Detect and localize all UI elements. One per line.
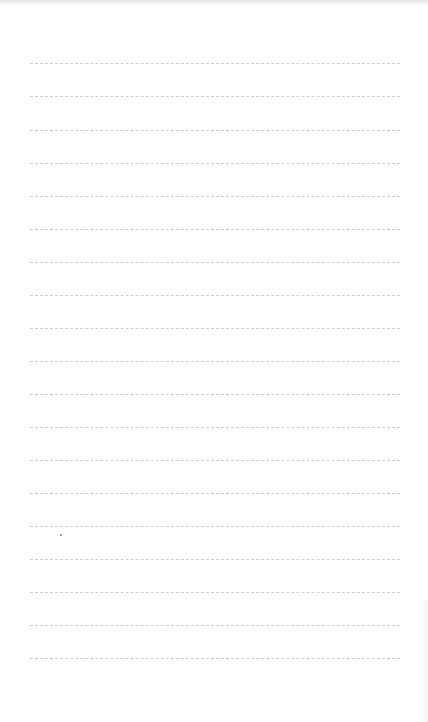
rule-line [30,361,400,362]
rule-line [30,229,400,230]
rule-line [30,295,400,296]
rule-line [30,427,400,428]
rule-line [30,63,400,64]
rule-line [30,163,400,164]
ruled-lines-area [0,0,428,722]
rule-line [30,526,400,527]
rule-line [30,460,400,461]
rule-line [30,559,400,560]
ink-speck [60,534,62,536]
rule-line [30,262,400,263]
rule-line [30,493,400,494]
rule-line [30,130,400,131]
rule-line [30,394,400,395]
rule-line [30,328,400,329]
rule-line [30,196,400,197]
rule-line [30,592,400,593]
rule-line [30,96,400,97]
rule-line [30,625,400,626]
rule-line [30,658,400,659]
